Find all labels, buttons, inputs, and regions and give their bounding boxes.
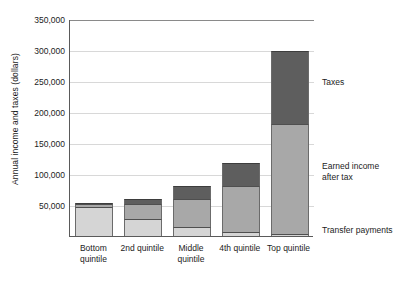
bar-3[interactable] xyxy=(173,186,211,236)
y-axis-tick-label: 150,000 xyxy=(21,140,65,149)
bar-5[interactable] xyxy=(271,51,309,236)
bar-segment-transfer-payments[interactable] xyxy=(271,234,309,236)
bar-1[interactable] xyxy=(75,203,113,236)
annotation-taxes: Taxes xyxy=(322,77,344,88)
chart-figure: Annual income and taxes (dollars) 50,000… xyxy=(0,0,414,284)
bar-segment-transfer-payments[interactable] xyxy=(173,227,211,236)
annotation-line: Transfer payments xyxy=(322,225,393,236)
x-axis-tick-label-line: quintile xyxy=(155,254,227,265)
y-axis-tick-labels: 50,000100,000150,000200,000250,000300,00… xyxy=(20,0,65,284)
x-axis-tick-label-line: quintile xyxy=(57,254,129,265)
bar-segment-transfer-payments[interactable] xyxy=(222,232,260,236)
annotation-line: Earned income xyxy=(322,161,379,172)
y-axis-tick-label: 350,000 xyxy=(21,16,65,25)
bar-segment-earned-income-after-tax[interactable] xyxy=(271,124,309,233)
annotation-transfer-payments: Transfer payments xyxy=(322,225,393,236)
bar-2[interactable] xyxy=(124,199,162,236)
y-axis-tick-label: 300,000 xyxy=(21,47,65,56)
y-axis-tick-label: 100,000 xyxy=(21,171,65,180)
y-axis-title-text: Annual income and taxes (dollars) xyxy=(10,53,20,185)
y-axis-tick-label: 50,000 xyxy=(21,202,65,211)
bar-segment-taxes[interactable] xyxy=(222,163,260,187)
bar-segment-earned-income-after-tax[interactable] xyxy=(222,186,260,232)
x-axis-tick-label-line: Top quintile xyxy=(253,243,325,254)
bar-segment-earned-income-after-tax[interactable] xyxy=(173,199,211,228)
annotation-line: after tax xyxy=(322,172,379,183)
x-axis-tick-label: Top quintile xyxy=(253,243,325,254)
annotation-line: Taxes xyxy=(322,77,344,88)
bar-4[interactable] xyxy=(222,163,260,236)
bar-segment-earned-income-after-tax[interactable] xyxy=(124,204,162,219)
bar-segment-taxes[interactable] xyxy=(173,186,211,198)
plot-area xyxy=(69,20,313,237)
y-axis-tick-label: 200,000 xyxy=(21,109,65,118)
bar-segment-transfer-payments[interactable] xyxy=(75,207,113,236)
annotation-earned-income-after-tax: Earned incomeafter tax xyxy=(322,161,379,183)
bar-segment-taxes[interactable] xyxy=(271,51,309,125)
plot-top-edge xyxy=(70,20,314,21)
y-axis-tick-label: 250,000 xyxy=(21,78,65,87)
bar-segment-transfer-payments[interactable] xyxy=(124,219,162,236)
